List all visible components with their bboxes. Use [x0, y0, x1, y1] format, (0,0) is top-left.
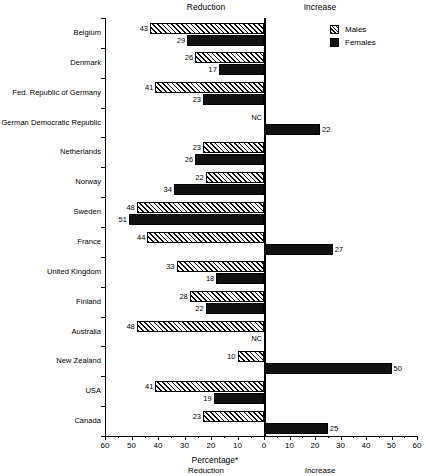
y-axis-label-netherlands: Netherlands	[60, 147, 101, 157]
y-axis-tick	[101, 78, 105, 79]
y-axis-label-australia: Australia	[71, 327, 101, 337]
bar-group: 2617	[105, 50, 417, 80]
bar-value-label: NC	[242, 112, 262, 123]
bar-group: 4851	[105, 200, 417, 230]
bar-value-label: 22	[322, 124, 330, 135]
bar-group: NC22	[105, 110, 417, 140]
x-axis-tick-label: 0	[254, 441, 274, 450]
bar-value-label: 44	[132, 232, 145, 243]
bar-males	[190, 291, 264, 302]
y-axis-tick	[101, 227, 105, 228]
x-axis-minor-tick	[277, 436, 278, 438]
x-axis-tick-label: 30	[175, 441, 195, 450]
x-axis-title: Percentage*	[0, 455, 418, 465]
bar-value-label: 18	[201, 273, 214, 284]
header-increase-top: Increase	[280, 2, 360, 14]
x-axis-tick-label: 20	[305, 441, 325, 450]
bar-value-label: 22	[191, 172, 204, 183]
y-axis-tick	[101, 406, 105, 407]
bar-value-label: 48	[122, 321, 135, 332]
y-axis-tick	[101, 317, 105, 318]
bar-group: 2325	[105, 409, 417, 439]
y-axis-label-united-kingdom: United Kingdom	[47, 267, 101, 277]
bar-males	[203, 142, 264, 153]
bar-value-label: 29	[172, 35, 185, 46]
bar-males	[150, 23, 264, 34]
bar-females	[195, 154, 264, 165]
bar-value-label: 48	[122, 202, 135, 213]
x-axis-minor-tick	[224, 436, 225, 438]
x-axis-minor-tick	[353, 436, 354, 438]
plot-area: 432926174123NC22232622344851442733182822…	[105, 18, 417, 436]
header-reduction-bottom: Reduction	[166, 466, 246, 476]
y-axis-tick	[101, 18, 105, 19]
bar-group: 4123	[105, 80, 417, 110]
bar-males	[137, 202, 264, 213]
bar-group: 2234	[105, 170, 417, 200]
x-axis: 6050403020100102030405060	[105, 436, 418, 450]
bar-males	[137, 321, 264, 332]
bar-females	[187, 35, 264, 46]
bar-value-label: 23	[188, 411, 201, 422]
bar-group: 4119	[105, 379, 417, 409]
bar-females	[216, 273, 264, 284]
x-axis-tick	[417, 436, 418, 440]
bar-value-label: 27	[335, 244, 343, 255]
bar-value-label: NC	[242, 333, 262, 344]
bar-males	[155, 381, 264, 392]
bar-value-label: 50	[394, 363, 402, 374]
y-axis-label-france: France	[77, 237, 101, 247]
y-axis-tick	[101, 287, 105, 288]
bar-males	[147, 232, 264, 243]
x-axis-tick-label: 60	[407, 441, 426, 450]
bar-group: 1050	[105, 349, 417, 379]
bar-group: 4427	[105, 230, 417, 260]
x-axis-minor-tick	[328, 436, 329, 438]
x-axis-tick	[341, 436, 342, 440]
y-axis-labels: BelgiumDenmarkFed. Republic of GermanyGe…	[0, 18, 101, 436]
x-axis-tick	[290, 436, 291, 440]
bar-females	[264, 363, 392, 374]
y-axis-label-sweden: Sweden	[74, 207, 101, 217]
bar-females	[219, 64, 264, 75]
x-axis-tick-label: 50	[122, 441, 142, 450]
x-axis-minor-tick	[145, 436, 146, 438]
header-increase-bottom: Increase	[280, 466, 360, 476]
x-axis-tick	[315, 436, 316, 440]
bar-value-label: 23	[188, 142, 201, 153]
x-axis-tick	[158, 436, 159, 440]
x-axis-minor-tick	[251, 436, 252, 438]
x-axis-tick-label: 20	[201, 441, 221, 450]
bar-males	[155, 82, 264, 93]
header-reduction-top: Reduction	[166, 2, 246, 14]
x-axis-tick	[238, 436, 239, 440]
bar-group: 3318	[105, 259, 417, 289]
x-axis-tick	[105, 436, 106, 440]
x-axis-minor-tick	[198, 436, 199, 438]
bar-males	[238, 351, 265, 362]
y-axis-tick	[101, 48, 105, 49]
y-axis-label-usa: USA	[85, 386, 101, 396]
bar-value-label: 22	[191, 303, 204, 314]
bar-value-label: 23	[188, 94, 201, 105]
x-axis-tick	[132, 436, 133, 440]
bar-females	[129, 214, 264, 225]
bar-value-label: 33	[162, 261, 175, 272]
bar-males	[206, 172, 264, 183]
x-axis-tick-label: 40	[356, 441, 376, 450]
x-axis-tick-label: 50	[382, 441, 402, 450]
x-axis-tick	[211, 436, 212, 440]
bar-males	[203, 411, 264, 422]
y-axis-label-finland: Finland	[76, 297, 101, 307]
bar-value-label: 26	[180, 52, 193, 63]
bar-group: 4329	[105, 21, 417, 51]
bar-value-label: 43	[135, 23, 148, 34]
x-axis-tick-label: 10	[228, 441, 248, 450]
y-axis-label-fed-republic-of-germany: Fed. Republic of Germany	[12, 88, 101, 98]
bar-males	[195, 52, 264, 63]
y-axis-label-denmark: Denmark	[70, 58, 101, 68]
x-axis-title-text: Percentage*	[192, 455, 239, 465]
y-axis-label-norway: Norway	[75, 177, 101, 187]
bar-value-label: 34	[159, 184, 172, 195]
